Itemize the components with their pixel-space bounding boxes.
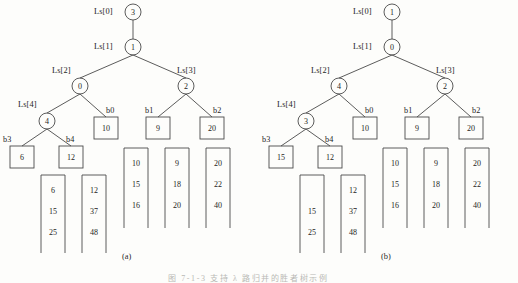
value-a-b1: 9 (146, 124, 170, 133)
label-b-ls3-tag: Ls[3] (436, 67, 455, 75)
run-a-0-item: 25 (41, 228, 65, 237)
label-b-ls4-tag: Ls[4] (277, 101, 296, 109)
label-b-b3-tag: b3 (262, 136, 270, 144)
run-b-1-item: 37 (341, 207, 365, 216)
label-b-b4-tag: b4 (325, 136, 333, 144)
label-b-b0-tag: b0 (365, 107, 373, 115)
label-a-b1-tag: b1 (145, 107, 153, 115)
figure-caption: 图 7-1-3 支持 λ 路归并的胜者树示例 (168, 272, 328, 283)
value-a-ls4: 4 (39, 117, 55, 126)
value-b-b1: 9 (405, 124, 429, 133)
value-a-ls2: 0 (72, 82, 88, 91)
value-b-b0: 10 (353, 124, 377, 133)
run-a-0-item: 15 (41, 207, 65, 216)
edge-a-ls3-b2 (186, 94, 212, 117)
value-a-b0: 10 (94, 124, 118, 133)
edge-a-ls3-b1 (158, 94, 186, 117)
label-b-b1-tag: b1 (404, 107, 412, 115)
value-b-b4: 12 (318, 153, 342, 162)
run-a-3-item: 20 (165, 201, 189, 210)
value-b-ls3: 2 (437, 82, 453, 91)
value-a-b2: 20 (200, 124, 224, 133)
value-a-ls3: 2 (178, 82, 194, 91)
run-b-4-item: 20 (465, 159, 489, 168)
run-b-1-item: 48 (341, 228, 365, 237)
run-a-1-item: 12 (82, 186, 106, 195)
run-b-0-item: 25 (300, 228, 324, 237)
label-a-b0-tag: b0 (106, 107, 114, 115)
label-b-b2-tag: b2 (472, 107, 480, 115)
run-b-3-item: 9 (424, 159, 448, 168)
run-a-2-item: 16 (124, 201, 148, 210)
value-a-b4: 12 (59, 153, 83, 162)
label-a-b3-tag: b3 (3, 136, 11, 144)
label-b-ls2-tag: Ls[2] (311, 67, 330, 75)
run-b-2-item: 15 (383, 180, 407, 189)
edge-b-ls4-b3 (281, 129, 306, 146)
run-a-4-item: 40 (206, 201, 230, 210)
run-b-2-item: 10 (383, 159, 407, 168)
run-a-4-item: 22 (206, 180, 230, 189)
run-a-2-item: 10 (124, 159, 148, 168)
edge-a-ls2-ls4 (47, 94, 80, 113)
value-b-ls2: 4 (331, 82, 347, 91)
panel-b-label: (b) (381, 252, 391, 261)
label-a-ls1-tag: Ls[1] (94, 43, 113, 51)
run-a-3-item: 9 (165, 159, 189, 168)
value-a-ls0: 3 (125, 8, 141, 17)
edge-a-ls1-ls2 (80, 55, 133, 78)
label-a-ls4-tag: Ls[4] (18, 101, 37, 109)
run-a-2-item: 15 (124, 180, 148, 189)
label-a-b4-tag: b4 (66, 136, 74, 144)
label-a-ls3-tag: Ls[3] (177, 67, 196, 75)
run-b-3-item: 18 (424, 180, 448, 189)
value-b-b2: 20 (459, 124, 483, 133)
value-b-ls4: 3 (298, 117, 314, 126)
run-a-3-item: 18 (165, 180, 189, 189)
run-a-0-item: 6 (41, 186, 65, 195)
label-a-ls2-tag: Ls[2] (52, 67, 71, 75)
label-a-ls0-tag: Ls[0] (94, 8, 113, 16)
label-a-b2-tag: b2 (213, 107, 221, 115)
edge-b-ls2-b0 (339, 94, 365, 117)
run-b-2-item: 16 (383, 201, 407, 210)
edge-b-ls2-ls4 (306, 94, 339, 113)
run-b-4-item: 40 (465, 201, 489, 210)
edge-a-ls2-b0 (80, 94, 106, 117)
run-b-3-item: 20 (424, 201, 448, 210)
value-b-ls1: 0 (384, 43, 400, 52)
edge-b-ls1-ls2 (339, 55, 392, 78)
edge-b-ls3-b1 (417, 94, 445, 117)
value-b-b3: 15 (269, 153, 293, 162)
run-b-1-item: 12 (341, 186, 365, 195)
value-a-ls1: 1 (125, 43, 141, 52)
label-b-ls0-tag: Ls[0] (353, 8, 372, 16)
edge-b-ls3-b2 (445, 94, 471, 117)
run-b-4-item: 22 (465, 180, 489, 189)
run-a-1-item: 48 (82, 228, 106, 237)
panel-a-label: (a) (122, 252, 131, 261)
label-b-ls1-tag: Ls[1] (353, 43, 372, 51)
run-a-4-item: 20 (206, 159, 230, 168)
value-b-ls0: 1 (384, 8, 400, 17)
value-a-b3: 6 (10, 153, 34, 162)
edge-a-ls4-b3 (22, 129, 47, 146)
run-a-1-item: 37 (82, 207, 106, 216)
run-b-0-item: 15 (300, 207, 324, 216)
